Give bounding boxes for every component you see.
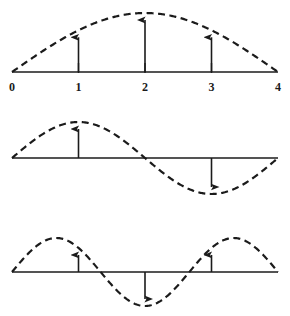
axis-label-2: 2 xyxy=(142,80,148,94)
mode-shape-figure: 01234 xyxy=(0,0,290,316)
axis-label-0: 0 xyxy=(9,80,15,94)
axis-label-1: 1 xyxy=(76,80,82,94)
axis-label-3: 3 xyxy=(209,80,215,94)
figure-canvas: 01234 xyxy=(0,0,290,316)
axis-label-4: 4 xyxy=(275,80,281,94)
